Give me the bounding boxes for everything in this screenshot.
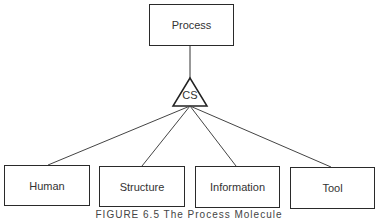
connector-to-human-line — [48, 106, 190, 165]
figure-caption: FIGURE 6.5 The Process Molecule — [0, 209, 378, 219]
tool-box: Tool — [290, 167, 375, 209]
structure-box: Structure — [99, 166, 185, 207]
connector-to-tool-line — [190, 106, 331, 167]
structure-label: Structure — [120, 181, 165, 193]
tool-label: Tool — [322, 182, 342, 194]
process-box: Process — [149, 4, 234, 46]
human-label: Human — [29, 180, 64, 192]
information-box: Information — [195, 166, 280, 208]
human-box: Human — [4, 165, 90, 206]
information-label: Information — [210, 181, 265, 193]
cs-label: CS — [175, 89, 205, 101]
process-label: Process — [172, 19, 212, 31]
connector-to-information-line — [190, 106, 236, 166]
connector-to-structure-line — [142, 106, 190, 166]
